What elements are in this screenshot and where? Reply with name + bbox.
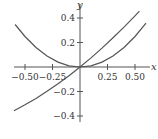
- svg-text:−0.2: −0.2: [53, 87, 75, 97]
- svg-text:0.4: 0.4: [61, 13, 76, 23]
- series-increasing-curve: [14, 11, 139, 111]
- svg-text:0.25: 0.25: [97, 72, 117, 82]
- svg-text:−0.4: −0.4: [53, 111, 75, 121]
- svg-text:0.2: 0.2: [61, 38, 75, 48]
- series-parabola: [15, 23, 146, 67]
- x-axis-label: x: [151, 61, 157, 72]
- x-tick-labels: −0.50 −0.25 0.25 0.50: [11, 72, 145, 82]
- y-axis-label: y: [76, 0, 83, 10]
- svg-text:0.50: 0.50: [125, 72, 145, 82]
- svg-text:−0.50: −0.50: [11, 72, 39, 82]
- chart: x y −0.50 −0.25 0.25 0.50 0.4 0.2 −0.2 −…: [0, 0, 158, 139]
